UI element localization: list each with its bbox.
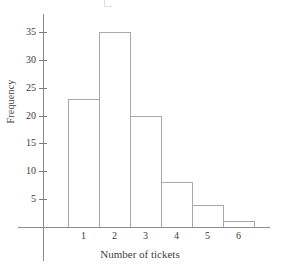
histogram-bar <box>192 205 224 227</box>
x-axis-tick-label: 2 <box>104 230 126 242</box>
y-axis-tick-label: 10 <box>12 166 36 176</box>
y-axis-title: Frequency <box>5 66 16 138</box>
y-axis-tick <box>39 116 47 117</box>
x-axis-tick-label: 4 <box>166 230 188 242</box>
y-axis-tick-label: 20 <box>12 111 36 121</box>
y-axis-tick-label: 30 <box>12 55 36 65</box>
y-axis-line <box>43 14 44 261</box>
x-axis-tick-label: 3 <box>135 230 157 242</box>
y-axis-tick <box>39 32 47 33</box>
y-axis-tick-label: 25 <box>12 83 36 93</box>
x-axis-title: Number of tickets <box>60 248 220 260</box>
y-axis-tick-label: 15 <box>12 138 36 148</box>
histogram-bar <box>223 221 255 227</box>
histogram-bar <box>99 32 131 227</box>
x-axis-tick-label: 6 <box>228 230 250 242</box>
histogram-bar <box>161 182 193 227</box>
histogram-bar <box>68 99 100 227</box>
y-axis-tick <box>39 60 47 61</box>
x-axis-tick-label: 5 <box>197 230 219 242</box>
y-axis-tick <box>39 171 47 172</box>
x-axis-tick-label: 1 <box>73 230 95 242</box>
y-axis-tick-label: 35 <box>12 27 36 37</box>
y-axis-tick <box>39 199 47 200</box>
x-axis-line <box>18 227 270 228</box>
scan-artifact <box>104 0 112 7</box>
y-axis-tick-label: 5 <box>12 194 36 204</box>
y-axis-tick <box>39 88 47 89</box>
histogram-chart: Frequency 5101520253035 123456 Number of… <box>0 0 287 268</box>
histogram-bar <box>130 116 162 227</box>
y-axis-tick <box>39 143 47 144</box>
